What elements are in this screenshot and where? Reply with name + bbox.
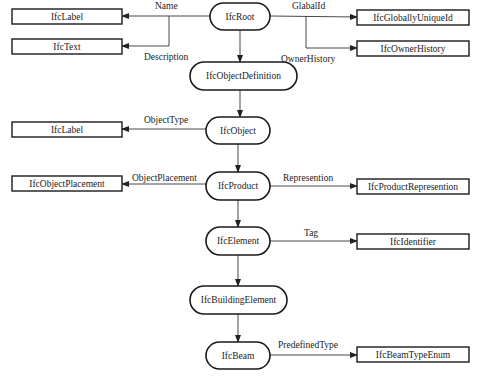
node-ifcobjectdefinition: IfcObjectDefinition — [190, 62, 297, 90]
type-box-ifcidentifier: IfcIdentifier — [357, 234, 469, 249]
node-label: IfcObjectDefinition — [206, 71, 281, 81]
edge-globalid — [270, 16, 357, 17]
type-box-ifcgloballyuniqueid: IfcGloballyUniqueId — [357, 10, 469, 25]
type-label: IfcBeamTypeEnum — [376, 350, 451, 360]
node-ifcobject: IfcObject — [206, 117, 270, 144]
node-label: IfcRoot — [225, 12, 254, 22]
edge-label-ownerhistory: OwnerHistory — [281, 54, 336, 64]
edge-description — [122, 16, 169, 46]
type-label: IfcIdentifier — [390, 237, 437, 247]
type-box-ifcbeamtypeenum: IfcBeamTypeEnum — [357, 347, 469, 362]
node-label: IfcBeam — [222, 351, 255, 361]
edge-label-name: Name — [155, 1, 178, 11]
type-box-ifclabel-name: IfcLabel — [12, 9, 122, 24]
type-label: IfcLabel — [51, 12, 84, 22]
type-box-ifclabel-objecttype: IfcLabel — [12, 122, 122, 137]
type-box-ifctext: IfcText — [12, 39, 122, 54]
type-box-ifcobjectplacement: IfcObjectPlacement — [12, 176, 122, 191]
type-label: IfcProductRepresention — [368, 182, 458, 192]
edge-label-tag: Tag — [304, 228, 318, 238]
ifc-hierarchy-diagram: IfcRoot IfcObjectDefinition IfcObject If… — [0, 0, 479, 381]
edge-label-objecttype: ObjectType — [144, 115, 188, 125]
node-ifcbuildingelement: IfcBuildingElement — [190, 286, 287, 314]
edge-label-objectplacement: ObjectPlacement — [132, 173, 197, 183]
type-label: IfcOwnerHistory — [381, 44, 446, 54]
edge-label-predefinedtype: PredefinedType — [278, 340, 338, 350]
type-label: IfcLabel — [51, 125, 84, 135]
node-label: IfcBuildingElement — [201, 295, 277, 305]
edge-label-representation: Represention — [283, 173, 333, 183]
edge-ownerhistory — [306, 16, 357, 48]
edge-label-globalid: GlabalId — [292, 1, 325, 11]
node-ifcbeam: IfcBeam — [206, 342, 270, 369]
node-label: IfcObject — [220, 126, 256, 136]
node-ifcproduct: IfcProduct — [206, 172, 270, 200]
node-ifcelement: IfcElement — [206, 227, 270, 255]
type-label: IfcText — [53, 42, 81, 52]
node-ifcroot: IfcRoot — [210, 3, 270, 30]
node-label: IfcProduct — [218, 181, 258, 191]
edge-label-description: Description — [144, 52, 189, 62]
type-box-ifcproductrepresention: IfcProductRepresention — [357, 179, 469, 194]
type-label: IfcGloballyUniqueId — [373, 13, 453, 23]
node-label: IfcElement — [217, 236, 260, 246]
type-box-ifcownerhistory: IfcOwnerHistory — [357, 41, 469, 56]
nodes: IfcRoot IfcObjectDefinition IfcObject If… — [12, 3, 469, 369]
type-label: IfcObjectPlacement — [29, 179, 105, 189]
